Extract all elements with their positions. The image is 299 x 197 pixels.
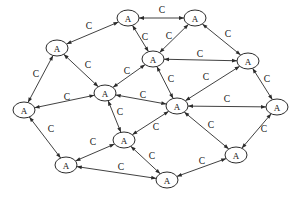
edge-arrowhead-forward [132, 130, 137, 134]
edge-label: C [203, 72, 209, 82]
edge-label: C [264, 74, 270, 84]
graph-edge[interactable]: C [77, 162, 156, 179]
node-label: A [63, 161, 70, 171]
node-label: A [121, 136, 128, 146]
edge-arrowhead-forward [113, 83, 118, 87]
node-label: A [174, 102, 181, 112]
edge-line [28, 55, 53, 102]
graph-edge[interactable]: C [113, 65, 145, 88]
edge-label: C [168, 74, 174, 84]
edge-line [131, 146, 160, 173]
edge-label: C [85, 60, 91, 70]
edge-label: C [118, 162, 124, 172]
graph-edge[interactable]: C [157, 66, 174, 98]
graph-node[interactable]: A [225, 147, 247, 163]
edge-label: C [159, 5, 165, 15]
edge-arrowhead-reverse [108, 101, 112, 106]
edge-line [64, 54, 99, 86]
edge-arrowhead-reverse [132, 25, 136, 30]
edge-arrowhead-reverse [234, 66, 239, 70]
node-layer: AAAAAAAAAAAAA [13, 10, 288, 188]
graph-edge[interactable]: C [132, 25, 148, 51]
edge-arrowhead-reverse [67, 40, 72, 44]
graph-node[interactable]: A [55, 157, 77, 173]
graph-edge[interactable]: C [108, 101, 123, 133]
graph-node[interactable]: A [13, 102, 35, 118]
edge-arrowhead-forward [151, 176, 156, 180]
node-label: A [164, 176, 171, 186]
node-label: A [21, 106, 28, 116]
edge-label: C [225, 29, 231, 39]
graph-edge[interactable]: C [139, 5, 184, 20]
edge-label: C [197, 49, 203, 59]
graph-edge[interactable]: C [253, 68, 273, 99]
edge-arrowhead-forward [161, 101, 166, 105]
edge-arrowhead-reverse [164, 111, 169, 115]
edge-arrowhead-forward [185, 96, 190, 100]
graph-edge[interactable]: C [188, 94, 266, 109]
edge-arrowhead-forward [221, 158, 226, 162]
node-label: A [192, 14, 199, 24]
graph-node[interactable]: A [46, 40, 68, 56]
graph-node[interactable]: A [184, 10, 206, 26]
edge-line [67, 22, 119, 44]
edge-arrowhead-reverse [140, 65, 145, 69]
node-label: A [274, 103, 281, 113]
graph-node[interactable]: A [156, 172, 178, 188]
graph-edge[interactable]: C [131, 146, 160, 173]
graph-node[interactable]: A [142, 51, 164, 67]
edge-arrowhead-reverse [177, 173, 182, 177]
graph-node[interactable]: A [237, 53, 259, 69]
edge-label: C [142, 32, 148, 42]
graph-edge[interactable]: C [29, 117, 60, 158]
graph-edge[interactable]: C [184, 112, 229, 149]
edge-arrowhead-forward [75, 157, 80, 161]
edge-arrowhead-forward [117, 127, 121, 132]
graph-edge[interactable]: C [28, 55, 53, 102]
edge-arrowhead-forward [169, 93, 173, 98]
edge-arrowhead-reverse [109, 144, 114, 148]
graph-edge[interactable]: C [67, 21, 119, 44]
edge-label: C [48, 124, 54, 134]
edge-arrowhead-forward [28, 97, 32, 102]
edge-line [160, 24, 189, 52]
edge-arrowhead-reverse [139, 16, 144, 20]
node-label: A [245, 57, 252, 67]
graph-edge[interactable]: C [116, 90, 167, 105]
node-label: A [102, 89, 109, 99]
edge-line [184, 112, 229, 149]
graph-node[interactable]: A [113, 132, 135, 148]
edge-arrowhead-reverse [164, 57, 169, 61]
node-label: A [54, 44, 61, 54]
edge-arrowhead-forward [113, 22, 118, 26]
graph-edge[interactable]: C [177, 156, 226, 176]
edge-line [164, 59, 237, 61]
edge-label: C [199, 156, 205, 166]
edge-arrowhead-reverse [77, 165, 82, 169]
graph-diagram: CCCCCCCCCCCCCCCCCCCCCCCC AAAAAAAAAAAAA [0, 0, 299, 197]
graph-edge[interactable]: C [242, 114, 271, 148]
edge-arrowhead-reverse [157, 66, 161, 71]
graph-node[interactable]: A [117, 10, 139, 26]
graph-edge[interactable]: C [35, 92, 95, 108]
graph-edge[interactable]: C [164, 49, 237, 62]
edge-arrowhead-forward [268, 94, 272, 99]
edge-line [188, 106, 266, 107]
graph-node[interactable]: A [266, 99, 288, 115]
graph-edge[interactable]: C [75, 137, 114, 161]
edge-label: C [153, 122, 159, 132]
graph-edge[interactable]: C [160, 24, 189, 52]
node-label: A [125, 14, 132, 24]
edge-label: C [33, 69, 39, 79]
graph-node[interactable]: A [166, 98, 188, 114]
graph-edge[interactable]: C [64, 54, 99, 86]
edge-arrowhead-reverse [116, 94, 121, 98]
graph-edge[interactable]: C [132, 111, 169, 134]
graph-node[interactable]: A [94, 85, 116, 101]
edge-arrowhead-reverse [188, 104, 193, 108]
edge-arrowhead-reverse [49, 55, 53, 60]
edge-label: C [208, 120, 214, 130]
edge-line [77, 167, 156, 179]
graph-edge[interactable]: C [185, 66, 239, 100]
graph-edge[interactable]: C [202, 24, 240, 55]
